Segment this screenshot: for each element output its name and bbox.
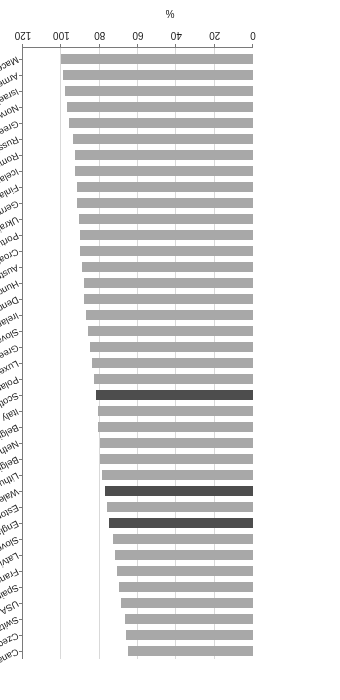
category-tick-mark <box>19 459 23 460</box>
category-tick-mark <box>19 155 23 156</box>
bar <box>82 262 253 272</box>
category-tick-mark <box>19 299 23 300</box>
bar <box>81 246 254 256</box>
bar <box>125 614 253 624</box>
bar-row: Belgium VLG <box>0 451 340 467</box>
category-tick-mark <box>19 283 23 284</box>
x-tick-label: 40 <box>161 30 191 41</box>
bar <box>79 214 253 224</box>
bar <box>100 438 253 448</box>
bar-row: Norway <box>0 99 340 115</box>
category-tick-mark <box>19 171 23 172</box>
bar-row: Luxembourg <box>0 355 340 371</box>
bar <box>98 406 253 416</box>
category-tick-mark <box>19 267 23 268</box>
x-tick-mark <box>252 44 253 48</box>
bar-row: Austria <box>0 259 340 275</box>
category-tick-mark <box>19 107 23 108</box>
category-tick-mark <box>19 331 23 332</box>
category-tick-mark <box>19 427 23 428</box>
bar-row: Croatia <box>0 243 340 259</box>
bar <box>81 230 254 240</box>
bar <box>109 518 253 528</box>
bar <box>75 150 253 160</box>
bar <box>67 102 253 112</box>
bar <box>77 198 253 208</box>
category-tick-mark <box>19 363 23 364</box>
category-tick-mark <box>19 635 23 636</box>
bar <box>102 470 253 480</box>
bar-row: England <box>0 515 340 531</box>
bar <box>65 86 253 96</box>
category-tick-mark <box>19 187 23 188</box>
category-tick-mark <box>19 235 23 236</box>
bar-row: Netherlands <box>0 435 340 451</box>
category-tick-mark <box>19 203 23 204</box>
bar-row: Scotland <box>0 387 340 403</box>
x-tick-mark <box>214 44 215 48</box>
bar-row: Iceland <box>0 163 340 179</box>
x-tick-label: 60 <box>123 30 153 41</box>
bar-row: Israel <box>0 83 340 99</box>
bar-row: Denmark <box>0 291 340 307</box>
bar-row: Armenia <box>0 67 340 83</box>
x-tick-mark <box>137 44 138 48</box>
bar <box>113 534 253 544</box>
category-tick-mark <box>19 491 23 492</box>
bar-row: Latvia <box>0 547 340 563</box>
category-tick-mark <box>19 219 23 220</box>
x-tick-label: 0 <box>238 30 268 41</box>
bar <box>90 342 253 352</box>
category-tick-mark <box>19 571 23 572</box>
bar-row: Romania <box>0 147 340 163</box>
bar-row: Canada <box>0 643 340 659</box>
bar-row: Greece <box>0 115 340 131</box>
category-tick-mark <box>19 347 23 348</box>
x-axis-line <box>23 47 253 48</box>
bar-row: Macedonia <box>0 51 340 67</box>
bar-row: Belgium Wallonie <box>0 419 340 435</box>
bar <box>63 70 253 80</box>
bar <box>86 310 253 320</box>
x-tick-mark <box>99 44 100 48</box>
bar-row: Czech Republic <box>0 627 340 643</box>
x-tick-label: 120 <box>8 30 38 41</box>
bar <box>69 118 253 128</box>
x-axis-title: % <box>0 8 340 19</box>
bar <box>96 390 253 400</box>
bar <box>117 566 253 576</box>
category-tick-mark <box>19 555 23 556</box>
bar-row: Slovakia <box>0 323 340 339</box>
category-tick-mark <box>19 443 23 444</box>
category-tick-mark <box>19 251 23 252</box>
bar <box>127 630 254 640</box>
bar <box>94 374 253 384</box>
category-tick-mark <box>19 507 23 508</box>
bar <box>92 358 253 368</box>
category-tick-mark <box>19 395 23 396</box>
category-tick-mark <box>19 411 23 412</box>
bar-row: Germany <box>0 195 340 211</box>
x-tick-label: 20 <box>200 30 230 41</box>
bar-row: Greenland <box>0 339 340 355</box>
bar-row: Russia <box>0 131 340 147</box>
bar <box>115 550 253 560</box>
bar <box>107 502 253 512</box>
bar-row: Ukraine <box>0 211 340 227</box>
bar-row: Estonia <box>0 499 340 515</box>
plot-area: CanadaCzech RepublicSwitzerlandUSASpainF… <box>0 0 340 700</box>
category-tick-mark <box>19 123 23 124</box>
category-tick-mark <box>19 139 23 140</box>
bar-row: Wales <box>0 483 340 499</box>
x-tick-label: 80 <box>85 30 115 41</box>
bar <box>84 294 253 304</box>
bar-row: Slovenia <box>0 531 340 547</box>
category-tick-mark <box>19 651 23 652</box>
category-tick-mark <box>19 523 23 524</box>
bar-row: Hungary <box>0 275 340 291</box>
x-tick-mark <box>22 44 23 48</box>
category-tick-mark <box>19 91 23 92</box>
bar <box>75 166 253 176</box>
bar-row: Spain <box>0 579 340 595</box>
bar-row: Lithuania <box>0 467 340 483</box>
